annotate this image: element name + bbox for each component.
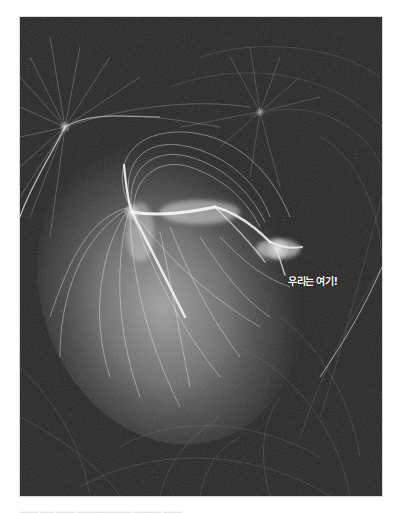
laniakea-illustration: 우리는 여기!: [20, 17, 382, 496]
flow-lines-graphic: [20, 17, 382, 496]
image-caption: ▂▂▂▂ ▂▂▂ ▂▂▂▂ ▂▂▂▂▂▂▂▂▂▂▂▂ ▂▂▂▂▂▂ ▂▂▂▂: [20, 506, 382, 513]
page: 우리는 여기! ▂▂▂▂ ▂▂▂ ▂▂▂▂ ▂▂▂▂▂▂▂▂▂▂▂▂ ▂▂▂▂▂…: [0, 0, 398, 513]
we-are-here-label: 우리는 여기!: [288, 273, 338, 288]
